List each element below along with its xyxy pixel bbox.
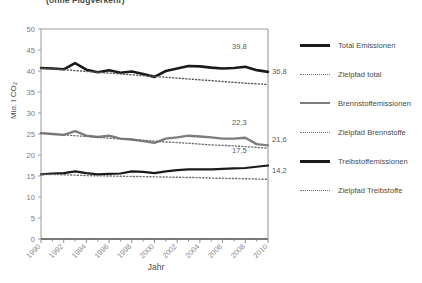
x-axis-title: Jahr — [106, 262, 206, 272]
chart-legend: Total EmissionenZielpfad totalBrennstoff… — [300, 40, 422, 214]
x-axis-tick-label: 2006 — [206, 242, 224, 260]
series-end-label-zielpfad_treibstoffe: 14,2 — [272, 166, 287, 175]
y-axis-tick-label: 20 — [27, 151, 35, 160]
series-end-label-treibstoffemissionen: 17,5 — [232, 146, 247, 155]
x-axis-tick-label: 1996 — [93, 242, 111, 260]
x-axis-tick-label: 1994 — [70, 242, 88, 260]
y-axis-title: Mio. t CO2 — [9, 66, 18, 136]
legend-item-label: Brennstoffemissionen — [338, 99, 411, 109]
y-axis-tick-label: 30 — [27, 109, 35, 118]
series-line-zielpfad_total — [41, 68, 268, 84]
y-axis-title-main: Mio. t CO — [9, 85, 18, 119]
legend-swatch-dotted-icon — [300, 128, 330, 138]
series-end-label-zielpfad_brennstoffe: 21,6 — [272, 135, 287, 144]
legend-swatch-dotted-icon — [300, 70, 330, 80]
legend-item-label: Zielpfad total — [338, 70, 381, 80]
x-axis-tick-label: 2008 — [229, 242, 247, 260]
legend-swatch-solid-icon — [300, 157, 330, 167]
series-line-treibstoffemissionen — [41, 166, 268, 175]
legend-item[interactable]: Zielpfad Brennstoffe — [300, 127, 422, 138]
x-axis-tick-label: 1992 — [47, 242, 65, 260]
legend-item[interactable]: Zielpfad total — [300, 69, 422, 80]
y-axis-tick-label: 40 — [27, 67, 35, 76]
legend-item-label: Zielpfad Brennstoffe — [338, 128, 406, 138]
x-axis-tick-label: 2000 — [138, 242, 156, 260]
legend-item-label: Treibstoffemissionen — [338, 157, 408, 167]
y-axis-tick-label: 15 — [27, 172, 35, 181]
legend-swatch-solid-icon — [300, 99, 330, 109]
y-axis-tick-label: 25 — [27, 130, 35, 139]
x-axis-tick-label: 1990 — [24, 242, 42, 260]
y-axis-tick-label: 45 — [27, 46, 35, 55]
legend-item[interactable]: Zielpfad Treibstoffe — [300, 185, 422, 196]
y-axis-tick-label: 50 — [27, 25, 35, 34]
x-axis-tick-label: 2004 — [183, 242, 201, 260]
chart-container: (ohne Flugverkehr) 051015202530354045501… — [0, 0, 422, 283]
y-axis-title-sub: 2 — [12, 82, 18, 85]
x-axis-tick-label: 2002 — [161, 242, 179, 260]
series-end-label-zielpfad_total: 36,8 — [272, 67, 287, 76]
y-axis-tick-label: 35 — [27, 88, 35, 97]
legend-swatch-dotted-icon — [300, 186, 330, 196]
y-axis-tick-label: 10 — [27, 193, 35, 202]
legend-item-label: Total Emissionen — [338, 41, 395, 51]
series-line-brennstoffemissionen — [41, 131, 268, 145]
legend-swatch-solid-icon — [300, 41, 330, 51]
x-axis-tick-label: 1998 — [115, 242, 133, 260]
legend-item-label: Zielpfad Treibstoffe — [338, 186, 402, 196]
legend-item[interactable]: Brennstoffemissionen — [300, 98, 422, 109]
series-end-label-total_emissionen: 39,8 — [232, 42, 247, 51]
x-axis-tick-label: 2010 — [251, 242, 269, 260]
series-end-label-brennstoffemissionen: 22,3 — [232, 118, 247, 127]
series-line-zielpfad_treibstoffe — [41, 174, 268, 179]
legend-item[interactable]: Treibstoffemissionen — [300, 156, 422, 167]
y-axis-tick-label: 5 — [31, 214, 35, 223]
legend-item[interactable]: Total Emissionen — [300, 40, 422, 51]
